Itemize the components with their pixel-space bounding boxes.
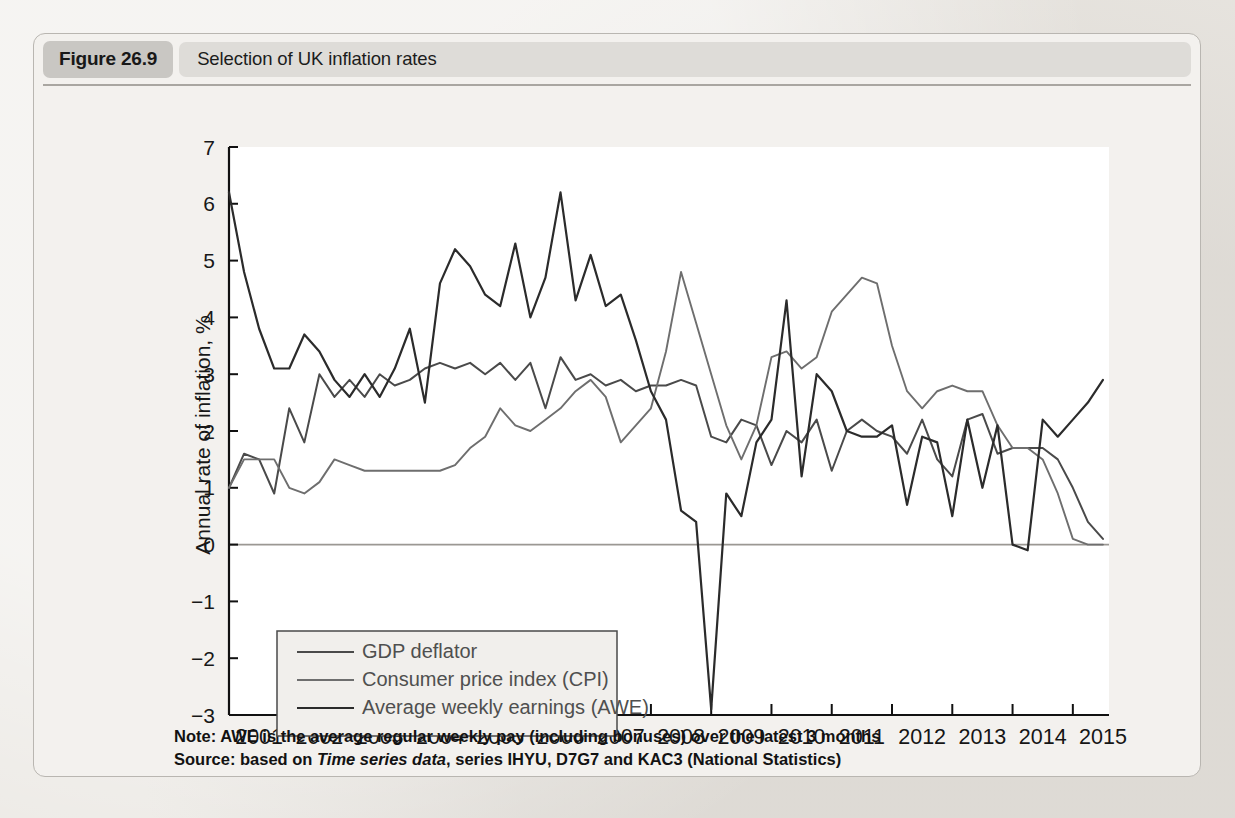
figure-header: Figure 26.9 Selection of UK inflation ra…: [34, 34, 1200, 84]
chart-area: 76543210−1−2−3 2001200220032004200520062…: [34, 85, 1201, 777]
source-line: Source: based on Time series data, serie…: [174, 750, 841, 768]
figure-container: Figure 26.9 Selection of UK inflation ra…: [33, 33, 1201, 777]
y-axis-title: Annual rate of inflation, %: [191, 315, 214, 554]
figure-title-bar: Selection of UK inflation rates: [179, 42, 1191, 77]
figure-number-badge: Figure 26.9: [43, 41, 173, 78]
y-axis-tick-label: 5: [203, 249, 215, 272]
y-axis-tick-label: −2: [191, 647, 215, 670]
y-axis-tick-label: 6: [203, 192, 215, 215]
legend-label-3: Average weekly earnings (AWE): [362, 696, 649, 718]
y-axis-tick-label: 7: [203, 136, 215, 159]
legend-label-2: Consumer price index (CPI): [362, 668, 609, 690]
y-axis-tick-label: −1: [191, 590, 215, 613]
figure-title: Selection of UK inflation rates: [197, 48, 437, 70]
footnote-svg: Note: AWE is the average regular weekly …: [34, 724, 1201, 777]
plot-background: [229, 147, 1109, 715]
inflation-line-chart: 76543210−1−2−3 2001200220032004200520062…: [34, 85, 1201, 777]
note-line: Note: AWE is the average regular weekly …: [174, 727, 880, 745]
legend-label-1: GDP deflator: [362, 640, 478, 662]
figure-footnotes: Note: AWE is the average regular weekly …: [34, 724, 1200, 777]
chart-legend: GDP deflatorConsumer price index (CPI)Av…: [277, 631, 649, 736]
